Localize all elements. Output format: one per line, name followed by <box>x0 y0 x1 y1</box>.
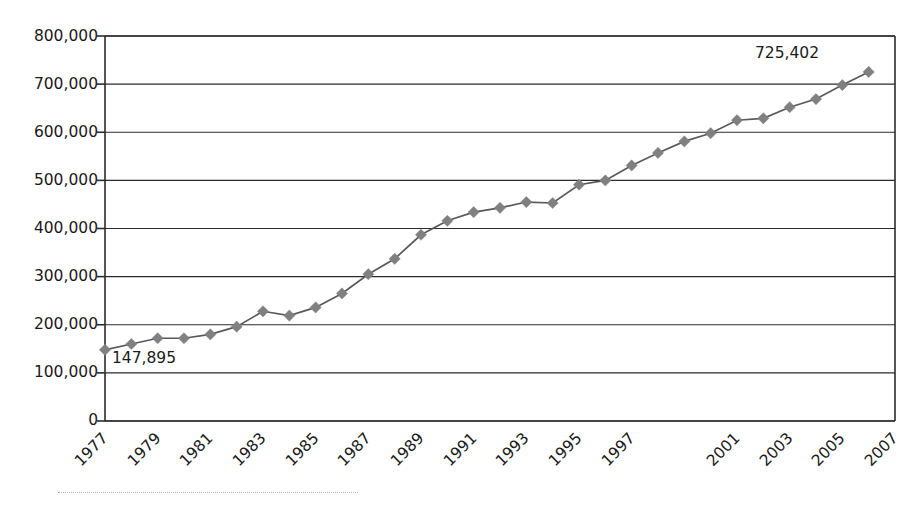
data-point-marker <box>758 113 769 124</box>
data-point-marker <box>310 302 321 313</box>
series-line <box>105 72 869 350</box>
data-point-marker <box>652 147 663 158</box>
data-point-marker <box>468 207 479 218</box>
data-point-marker <box>521 196 532 207</box>
data-point-marker <box>600 175 611 186</box>
data-point-marker <box>442 215 453 226</box>
footer-divider <box>58 492 358 493</box>
line-chart: 800,000 700,000 600,000 500,000 400,000 … <box>0 0 922 505</box>
data-point-marker <box>363 269 374 280</box>
data-point-marker <box>257 306 268 317</box>
y-axis-ticks <box>97 36 105 421</box>
data-point-marker <box>231 321 242 332</box>
data-point-marker <box>784 102 795 113</box>
data-point-marker <box>336 288 347 299</box>
data-point-marker <box>152 333 163 344</box>
data-point-marker <box>284 310 295 321</box>
data-point-marker <box>679 136 690 147</box>
start-value-annotation: 147,895 <box>112 349 176 367</box>
data-point-marker <box>547 197 558 208</box>
data-point-marker <box>626 160 637 171</box>
data-point-marker <box>205 329 216 340</box>
data-point-marker <box>863 66 874 77</box>
data-point-marker <box>178 333 189 344</box>
gridlines <box>105 36 895 421</box>
data-point-marker <box>731 115 742 126</box>
series-markers <box>99 66 874 355</box>
data-point-marker <box>837 79 848 90</box>
data-point-marker <box>810 93 821 104</box>
data-point-marker <box>99 344 110 355</box>
data-point-marker <box>494 202 505 213</box>
end-value-annotation: 725,402 <box>755 44 819 62</box>
data-point-marker <box>705 128 716 139</box>
data-point-marker <box>126 338 137 349</box>
